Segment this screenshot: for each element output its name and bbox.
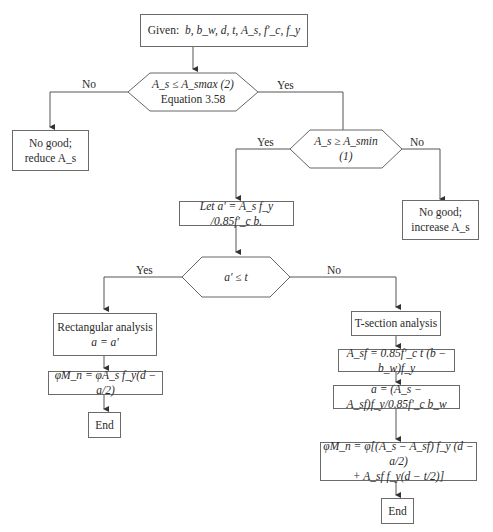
rectangular-analysis-eq: a = a' [91, 335, 118, 350]
no-good-reduce-box: No good; reduce A_s [12, 130, 89, 171]
edge-label-t-yes: Yes [136, 264, 153, 277]
t-section-end-label: End [388, 504, 407, 519]
asf-box: A_sf = 0.85f'_c t (b − b_w)f_y [338, 349, 455, 372]
t-section-analysis-title: T-section analysis [355, 316, 437, 331]
given-box: Given: b, b_w, d, t, A_s, f'_c, f_y [140, 14, 308, 47]
rectangular-moment-box: φM_n = φA_s f_y(d − a/2) [48, 371, 163, 395]
edge-label-max-yes: Yes [277, 79, 294, 92]
t-section-moment-line1: φM_n = φ[(A_s − A_sf) f_y (d − a/2) [321, 439, 476, 469]
decision-as-max-condition: A_s ≤ A_smax (2) [152, 77, 234, 92]
decision-a-prime-le-t-condition: a' ≤ t [224, 270, 247, 285]
t-section-moment-line2: + A_sf f_y(d − t/2)] [353, 469, 444, 484]
edge-label-max-no: No [82, 78, 96, 91]
t-section-end-box: End [381, 498, 414, 524]
edge-label-min-no: No [410, 136, 424, 149]
no-good-increase-line2: increase A_s [411, 220, 469, 235]
a-equation-box: a = (A_s − A_sf)f_y/0.85f'_c b_w [333, 385, 460, 409]
rectangular-end-label: End [95, 418, 114, 433]
edge-label-t-no: No [327, 264, 341, 277]
decision-a-prime-le-t: a' ≤ t [202, 257, 270, 297]
flowchart-canvas: Given: b, b_w, d, t, A_s, f'_c, f_y A_s … [0, 0, 493, 532]
rectangular-analysis-title: Rectangular analysis [57, 320, 152, 335]
let-a-prime-box: Let a' = A_s f_y /0.85f'_c b. [179, 201, 294, 226]
decision-as-min: A_s ≥ A_smin (1) [310, 130, 382, 168]
decision-as-max-equation: Equation 3.58 [161, 92, 226, 107]
rectangular-moment-eq: φM_n = φA_s f_y(d − a/2) [49, 368, 162, 398]
given-variables: b, b_w, d, t, A_s, f'_c, f_y [185, 23, 300, 38]
edge-label-min-yes: Yes [257, 136, 274, 149]
no-good-increase-box: No good; increase A_s [402, 200, 479, 240]
let-a-prime-text: Let a' = A_s f_y /0.85f'_c b. [180, 199, 293, 229]
no-good-reduce-line1: No good; [29, 136, 72, 151]
t-section-moment-box: φM_n = φ[(A_s − A_sf) f_y (d − a/2) + A_… [320, 442, 477, 481]
t-section-analysis-box: T-section analysis [351, 311, 441, 336]
no-good-increase-line1: No good; [419, 205, 462, 220]
no-good-reduce-line2: reduce A_s [25, 151, 76, 166]
decision-as-min-condition: A_s ≥ A_smin (1) [310, 134, 382, 164]
decision-as-max: A_s ≤ A_smax (2) Equation 3.58 [150, 73, 236, 111]
a-equation-text: a = (A_s − A_sf)f_y/0.85f'_c b_w [334, 382, 459, 412]
asf-eq: A_sf = 0.85f'_c t (b − b_w)f_y [339, 346, 454, 376]
given-label: Given: [148, 23, 179, 38]
rectangular-end-box: End [88, 412, 121, 438]
rectangular-analysis-box: Rectangular analysis a = a' [53, 313, 157, 356]
